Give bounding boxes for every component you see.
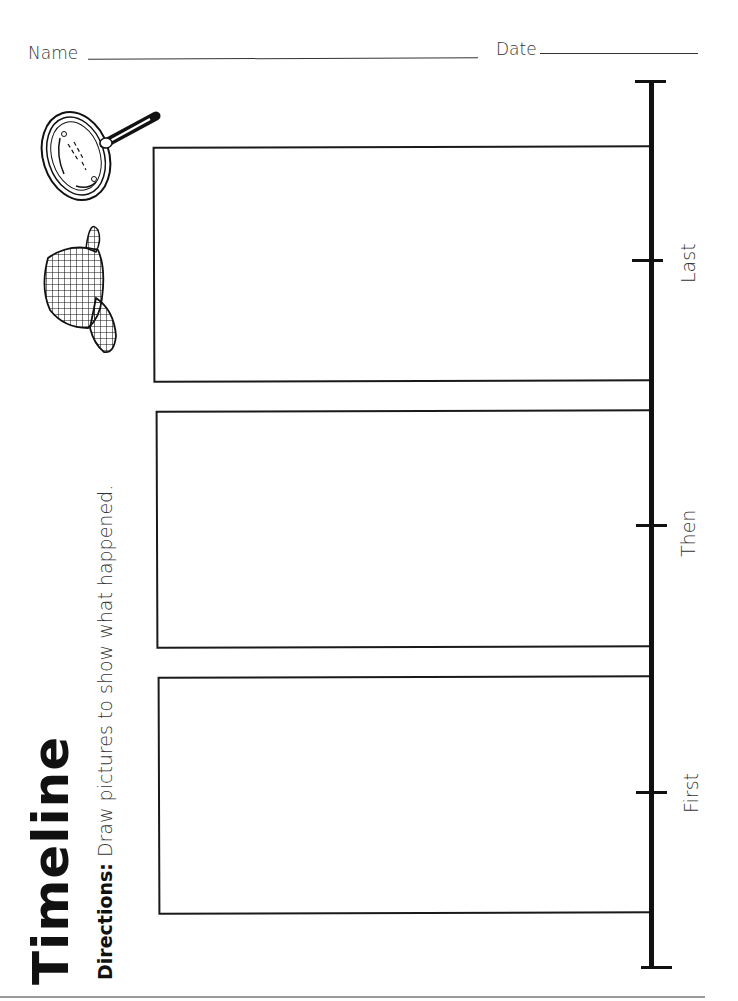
drawing-box-first[interactable] — [158, 675, 654, 915]
magnifying-glass-icon — [38, 104, 163, 212]
timeline-tick-first — [636, 791, 667, 794]
name-label: Name — [28, 43, 78, 63]
date-label: Date — [496, 39, 537, 59]
directions-body: Draw pictures to show what happened. — [94, 485, 116, 863]
step-label-last: Last — [677, 243, 699, 283]
drawing-box-last[interactable] — [153, 145, 654, 383]
page-title: Timeline — [22, 736, 80, 985]
cap-icon — [40, 218, 120, 358]
drawing-box-then[interactable] — [156, 409, 654, 649]
bottom-rule — [0, 996, 705, 998]
step-label-first: First — [680, 773, 702, 813]
step-label-then: Then — [677, 510, 699, 557]
timeline-tick-then — [636, 524, 667, 527]
directions-text: Directions: Draw pictures to show what h… — [94, 485, 116, 980]
timeline-top-cap — [635, 80, 666, 83]
name-field[interactable] — [88, 57, 478, 60]
date-field[interactable] — [540, 53, 698, 54]
timeline-bottom-cap — [641, 966, 672, 969]
directions-label: Directions: — [94, 863, 116, 980]
timeline-tick-last — [632, 259, 663, 262]
